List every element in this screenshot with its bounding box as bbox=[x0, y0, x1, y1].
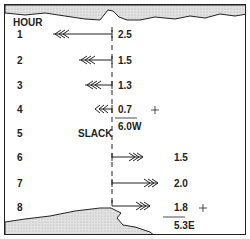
hour-label: 5 bbox=[17, 129, 23, 139]
sum-total-east: 5.3E bbox=[174, 221, 195, 231]
arrow-hour-1 bbox=[53, 30, 112, 38]
hour-label: 6 bbox=[17, 153, 23, 163]
sum-total-west: 6.0W bbox=[118, 122, 141, 132]
speed-value: 1.5 bbox=[118, 56, 132, 66]
hour-label: 2 bbox=[17, 56, 23, 66]
speed-value: 0.7 bbox=[118, 105, 132, 115]
arrow-hour-2 bbox=[79, 56, 112, 64]
bottom-shoreline bbox=[5, 208, 155, 235]
hour-label: 7 bbox=[17, 179, 23, 189]
arrow-hour-3 bbox=[85, 81, 112, 89]
hour-label: 3 bbox=[17, 81, 23, 91]
speed-value: 2.5 bbox=[118, 30, 132, 40]
tidal-current-diagram: HOUR 1 2 3 4 5 6 7 8 SLACK 2.5 1.5 1.3 0… bbox=[4, 4, 246, 235]
hour-label: 1 bbox=[17, 30, 23, 40]
slack-label: SLACK bbox=[78, 129, 112, 139]
arrow-hour-8 bbox=[112, 200, 150, 210]
speed-value: 2.0 bbox=[174, 179, 188, 189]
hour-header: HOUR bbox=[13, 18, 42, 28]
speed-value: 1.8 bbox=[174, 203, 188, 213]
hour-label: 4 bbox=[17, 105, 23, 115]
arrow-hour-7 bbox=[112, 179, 158, 187]
arrow-hour-4 bbox=[95, 105, 112, 113]
speed-value: 1.5 bbox=[174, 153, 188, 163]
arrow-hour-6 bbox=[112, 153, 143, 161]
hour-label: 8 bbox=[17, 203, 23, 213]
speed-value: 1.3 bbox=[118, 81, 132, 91]
